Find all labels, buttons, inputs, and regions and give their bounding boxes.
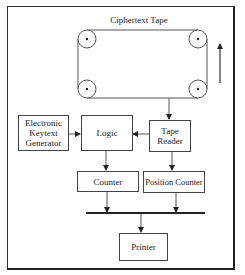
reel-bottom-left-icon: [78, 80, 96, 98]
ciphertext-tape-loop: [78, 30, 207, 98]
counter-box: Counter: [77, 171, 139, 192]
reel-top-right-icon: [189, 30, 207, 48]
cipher-system-diagram: Ciphertext Tape: [0, 0, 245, 275]
position-counter-box: Position Counter: [143, 171, 205, 193]
counter-label: Counter: [94, 177, 123, 187]
printer-label: Printer: [131, 242, 156, 252]
tape-reader-box: Tape Reader: [149, 120, 191, 152]
position-counter-label: Position Counter: [145, 177, 202, 187]
printer-box: Printer: [119, 233, 168, 261]
keytext-generator-box: Electronic Keytext Generator: [18, 115, 69, 151]
reel-bottom-right-icon: [189, 80, 207, 98]
logic-label: Logic: [97, 128, 118, 138]
logic-box: Logic: [81, 115, 133, 151]
tape-reader-label: Tape Reader: [157, 126, 182, 146]
reel-top-left-icon: [78, 30, 96, 48]
keytext-generator-label: Electronic Keytext Generator: [25, 118, 62, 148]
